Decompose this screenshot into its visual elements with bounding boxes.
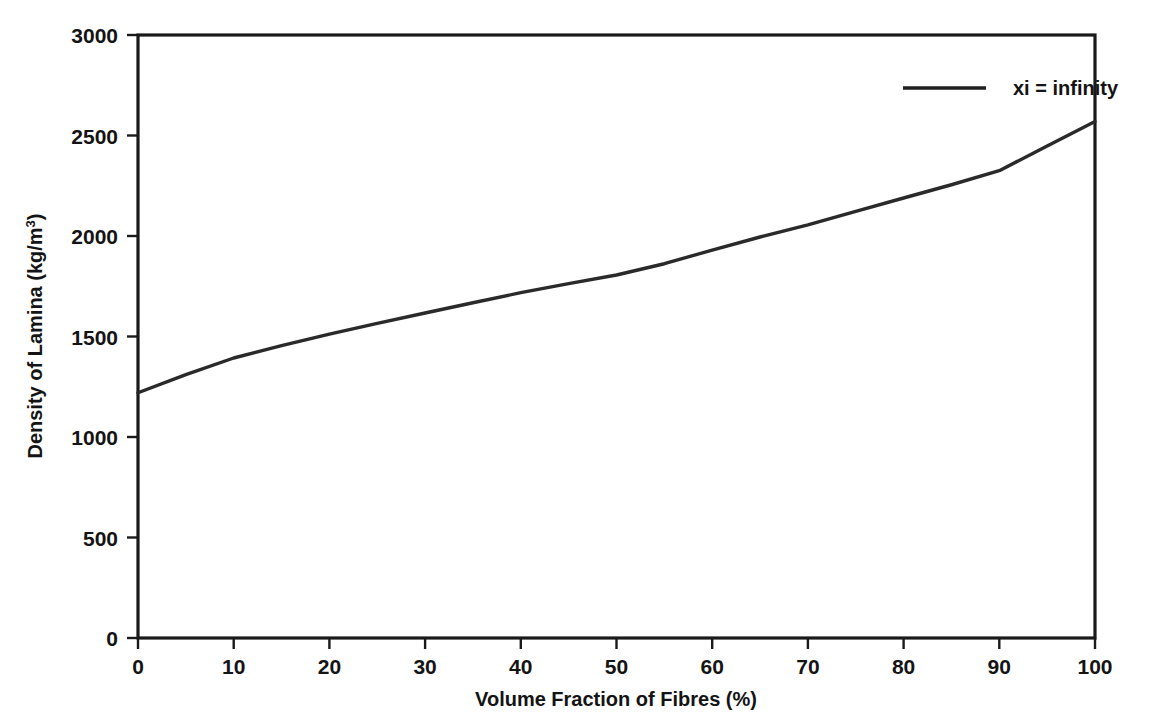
x-tick-label-80: 80 <box>892 655 915 678</box>
x-tick-label-0: 0 <box>132 655 144 678</box>
y-tick-label-500: 500 <box>83 527 118 550</box>
x-axis-title: Volume Fraction of Fibres (%) <box>475 688 757 710</box>
x-tick-label-20: 20 <box>318 655 341 678</box>
x-tick-label-50: 50 <box>605 655 628 678</box>
plot-frame <box>138 35 1095 638</box>
y-axis-tick-labels: 050010001500200025003000 <box>71 24 118 650</box>
data-line-series-0 <box>138 121 1095 392</box>
line-chart-canvas: 050010001500200025003000 010203040506070… <box>0 0 1166 728</box>
chart-legend: xi = infinity <box>903 77 1119 99</box>
y-axis-title-close: ) <box>24 213 46 220</box>
y-axis-tick-marks <box>127 35 138 638</box>
x-tick-label-10: 10 <box>222 655 245 678</box>
x-axis-tick-marks <box>138 638 1095 649</box>
x-tick-label-90: 90 <box>988 655 1011 678</box>
y-tick-label-2500: 2500 <box>71 125 118 148</box>
y-tick-label-1000: 1000 <box>71 426 118 449</box>
legend-label-xi-infinity: xi = infinity <box>1013 77 1119 99</box>
x-tick-label-60: 60 <box>701 655 724 678</box>
y-axis-title: Density of Lamina (kg/m3) <box>23 213 46 458</box>
y-tick-label-2000: 2000 <box>71 225 118 248</box>
chart-figure: 050010001500200025003000 010203040506070… <box>0 0 1166 728</box>
x-tick-label-40: 40 <box>509 655 532 678</box>
x-tick-label-70: 70 <box>796 655 819 678</box>
data-series-group <box>138 121 1095 392</box>
x-tick-label-30: 30 <box>413 655 436 678</box>
y-tick-label-1500: 1500 <box>71 326 118 349</box>
x-tick-label-100: 100 <box>1077 655 1112 678</box>
y-tick-label-3000: 3000 <box>71 24 118 47</box>
y-axis-title-exponent: 3 <box>23 220 38 227</box>
y-axis-title-base: Density of Lamina (kg/m <box>24 227 46 458</box>
y-tick-label-0: 0 <box>106 627 118 650</box>
x-axis-tick-labels: 0102030405060708090100 <box>132 655 1112 678</box>
